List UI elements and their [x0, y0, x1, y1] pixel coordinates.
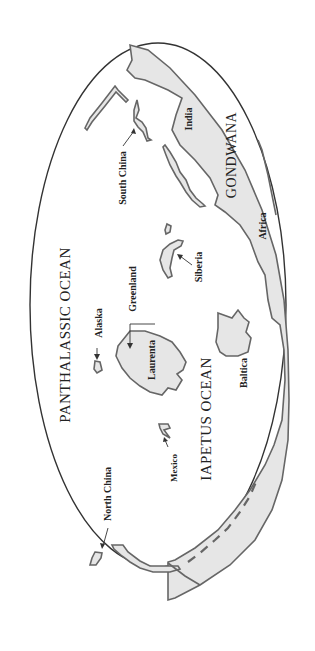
paleogeographic-map: PANTHALASSIC OCEAN IAPETUS OCEAN GONDWAN… — [0, 0, 315, 651]
alaska-label: Alaska — [93, 308, 104, 337]
north-china-landmass — [90, 552, 102, 565]
gondwana-label: GONDWANA — [224, 111, 239, 198]
mexico-label: Mexico — [169, 454, 179, 482]
iapetus-ocean-label: IAPETUS OCEAN — [198, 357, 214, 481]
africa-label: Africa — [257, 212, 268, 239]
panthalassic-ocean-label: PANTHALASSIC OCEAN — [57, 247, 73, 423]
small-island — [165, 224, 171, 234]
siberia-label: Siberia — [193, 252, 204, 283]
alaska-landmass — [94, 361, 102, 373]
baltica-label: Baltica — [238, 358, 249, 388]
laurentia-label: Laurenta — [146, 340, 157, 380]
north-china-label: North China — [102, 467, 113, 521]
south-china-label: South China — [117, 151, 128, 205]
india-label: India — [183, 108, 194, 131]
greenland-label: Greenland — [127, 266, 138, 312]
